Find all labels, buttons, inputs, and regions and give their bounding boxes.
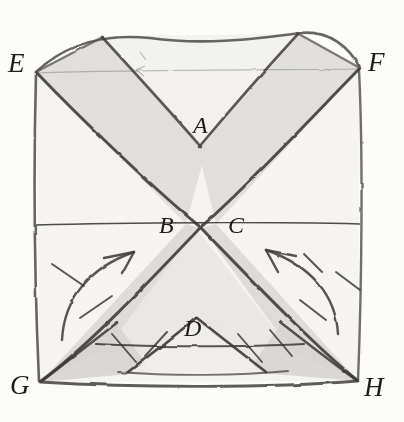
vertex-label-g: G — [10, 372, 30, 399]
vertex-label-h: H — [364, 374, 384, 401]
vertex-label-f: F — [368, 49, 385, 76]
fold-diagram-figure: E F G H A B C D — [0, 0, 404, 422]
point-label-a: A — [193, 113, 208, 137]
point-label-c: C — [228, 213, 244, 237]
point-label-b: B — [159, 213, 174, 237]
point-label-d: D — [184, 316, 201, 340]
fold-diagram-canvas — [0, 0, 404, 422]
vertex-label-e: E — [8, 50, 25, 77]
paper-grain-overlay — [0, 0, 404, 422]
